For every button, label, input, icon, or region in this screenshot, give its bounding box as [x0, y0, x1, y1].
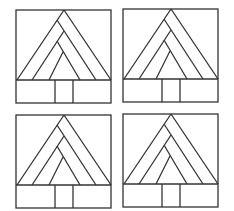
tree-block-icon — [15, 114, 112, 209]
tree-block-icon — [15, 9, 112, 104]
tile-bottom-left — [15, 114, 112, 209]
tree-block-icon — [122, 8, 219, 103]
tile-top-left — [15, 9, 112, 104]
tile-top-right — [122, 8, 219, 103]
tile-bottom-right — [122, 113, 219, 208]
tree-block-icon — [122, 113, 219, 208]
